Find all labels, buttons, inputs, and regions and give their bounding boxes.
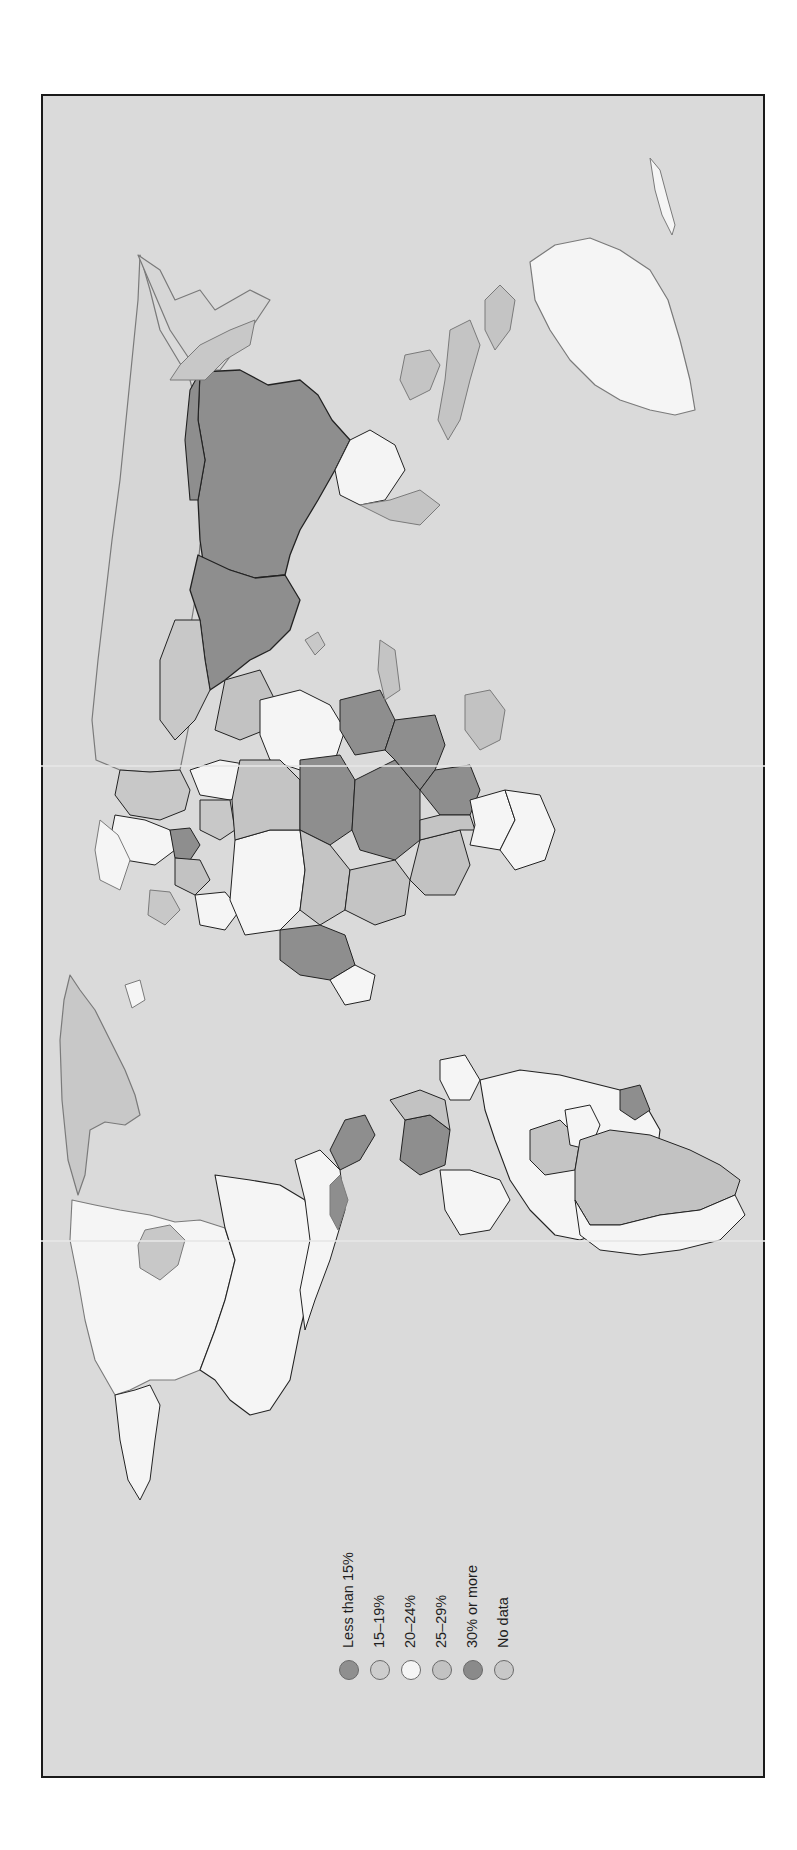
region-north-africa (230, 830, 305, 935)
legend-label: 20–24% (402, 1595, 418, 1648)
legend-label: Less than 15% (340, 1552, 356, 1648)
region-australia (530, 238, 695, 415)
region-italy-balkans (200, 800, 235, 840)
region-new-guinea (485, 285, 515, 350)
region-china (198, 370, 350, 578)
legend-label: 15–19% (371, 1595, 387, 1648)
region-iceland (125, 980, 145, 1008)
region-philippines (400, 350, 440, 400)
region-sri-lanka (305, 632, 325, 655)
scan-seam (41, 1240, 765, 1242)
legend-swatch-25-29 (432, 1660, 452, 1680)
legend-swatch-less-than-15 (339, 1660, 359, 1680)
region-germany (170, 828, 200, 860)
legend-swatch-no-data (494, 1660, 514, 1680)
region-horn-africa (378, 640, 400, 700)
region-central-america (330, 1115, 375, 1170)
region-egypt-libya (232, 760, 300, 840)
region-central-africa (345, 860, 410, 925)
region-sudan-chad (300, 755, 355, 845)
region-france (175, 858, 210, 895)
legend-swatch-30-or-more (463, 1660, 483, 1680)
region-greenland (60, 975, 140, 1195)
legend-label: No data (495, 1597, 511, 1648)
region-alaska (115, 1385, 160, 1500)
region-peru (440, 1170, 510, 1235)
scan-seam (41, 765, 765, 767)
legend-swatch-20-24 (401, 1660, 421, 1680)
world-map (0, 0, 797, 1850)
region-sahel (300, 830, 350, 925)
region-uk (148, 890, 180, 925)
region-guyanas (440, 1055, 480, 1100)
region-indonesia (438, 320, 480, 440)
legend-swatch-15-19 (370, 1660, 390, 1680)
region-madagascar (465, 690, 505, 750)
region-new-zealand (650, 158, 675, 235)
legend-label: 30% or more (464, 1565, 480, 1648)
region-europe-east (115, 770, 190, 820)
legend-label: 25–29% (433, 1595, 449, 1648)
